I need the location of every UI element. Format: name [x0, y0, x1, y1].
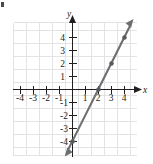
graph-figure: -4 -3 -2 -1 1 2 3 4 4 3 2 1 -1 -2 -3 -4 … — [0, 0, 153, 164]
y-tick-label: 2 — [60, 59, 65, 69]
point-marker-y-intercept — [70, 139, 75, 144]
y-tick-label: -4 — [60, 137, 68, 147]
x-tick-label: 4 — [122, 93, 127, 103]
x-tick-label: 3 — [109, 93, 114, 103]
x-tick-label: -3 — [29, 93, 37, 103]
point-marker-4-4 — [122, 35, 126, 39]
x-tick-labels: -4 -3 -2 -1 1 2 3 4 — [16, 93, 127, 103]
y-tick-label: 3 — [60, 46, 65, 56]
y-tick-label: 4 — [60, 33, 65, 43]
x-axis-label: x — [142, 85, 148, 95]
y-axis-label: y — [66, 9, 72, 19]
y-tick-label: -3 — [60, 124, 68, 134]
x-axis-arrow — [134, 86, 142, 93]
x-tick-label: 1 — [83, 93, 88, 103]
coordinate-plane-chart: -4 -3 -2 -1 1 2 3 4 4 3 2 1 -1 -2 -3 -4 … — [0, 0, 153, 164]
line-arrow-upper — [126, 19, 134, 28]
x-tick-label: -4 — [16, 93, 24, 103]
y-tick-label: -2 — [60, 111, 68, 121]
x-tick-label: -2 — [42, 93, 50, 103]
y-tick-label: 1 — [60, 72, 65, 82]
point-marker-3-2 — [109, 61, 113, 65]
y-tick-label: -1 — [60, 98, 68, 108]
point-marker-x-intercept — [96, 87, 101, 92]
